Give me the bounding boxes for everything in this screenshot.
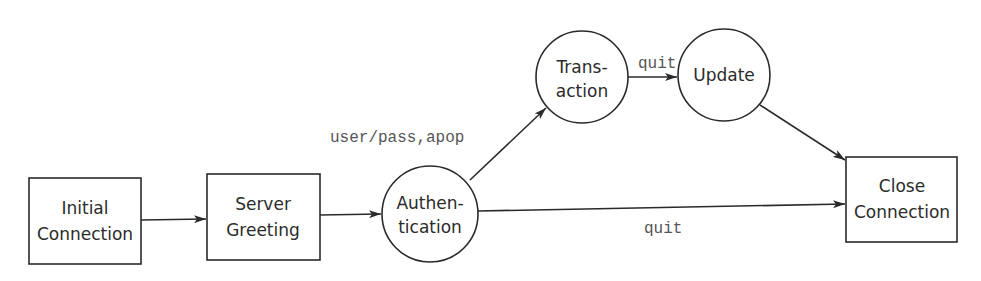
pop3-state-diagram: user/pass,apop quit quit Initial Connect…: [0, 0, 981, 281]
node-label-line: action: [556, 81, 608, 101]
edge-greeting-to-auth: [320, 214, 381, 215]
node-label-line: Update: [693, 65, 755, 85]
node-label-line: Server: [235, 194, 291, 214]
edge-update-to-close: [760, 105, 845, 160]
node-label-line: Initial: [61, 198, 108, 218]
edge-initial-to-greeting: [141, 219, 206, 220]
node-close-connection: Close Connection: [846, 157, 957, 242]
edge-auth-to-close: quit: [478, 204, 845, 238]
node-label-line: Connection: [854, 202, 950, 222]
node-label-line: tication: [398, 217, 462, 237]
node-label-line: Greeting: [226, 220, 300, 240]
node-authentication: Authen- tication: [382, 166, 478, 262]
node-server-greeting: Server Greeting: [207, 174, 320, 260]
node-label-line: Trans-: [555, 57, 607, 77]
node-label-line: Authen-: [396, 193, 463, 213]
node-initial-connection: Initial Connection: [29, 178, 141, 264]
edge-label-user-pass-apop: user/pass,apop: [330, 129, 464, 147]
edge-transaction-to-update: quit: [628, 55, 677, 77]
node-transaction: Trans- action: [536, 31, 628, 123]
node-update: Update: [678, 29, 770, 121]
node-label-line: Connection: [37, 224, 133, 244]
node-label-line: Close: [879, 176, 925, 196]
edge-label-quit-bottom: quit: [644, 220, 682, 238]
edge-label-quit-top: quit: [638, 55, 676, 73]
